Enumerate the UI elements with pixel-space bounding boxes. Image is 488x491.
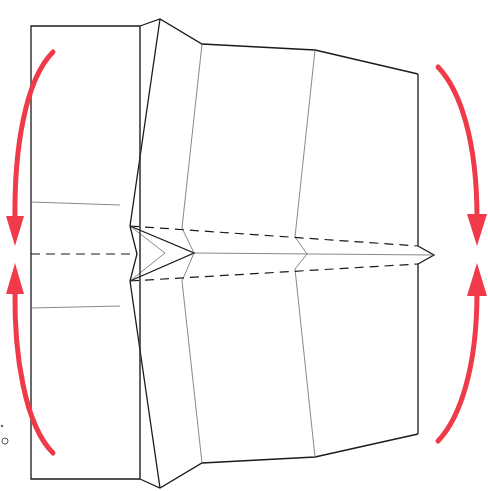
arrowhead-left-bottom-icon — [6, 263, 24, 294]
arrow-right-bottom — [438, 292, 477, 441]
arrowhead-left-top-icon — [6, 216, 24, 246]
arrow-right-top — [438, 67, 477, 218]
arrowhead-right-bottom-icon — [467, 263, 487, 296]
lower-valley-fold — [130, 264, 418, 281]
origami-fold-diagram — [0, 0, 488, 491]
interior-creases — [130, 26, 434, 479]
margin-circle-icon — [2, 438, 8, 444]
fold-arrows — [15, 52, 477, 453]
margin-dot-icon — [1, 425, 3, 427]
upper-valley-fold — [130, 226, 418, 246]
left-flap — [31, 26, 140, 479]
margin-marks — [1, 425, 8, 444]
arrow-left-top — [15, 52, 53, 220]
left-flap-creases — [31, 202, 120, 308]
arrow-left-bottom — [15, 290, 53, 453]
arrowhead-right-top-icon — [467, 214, 487, 246]
